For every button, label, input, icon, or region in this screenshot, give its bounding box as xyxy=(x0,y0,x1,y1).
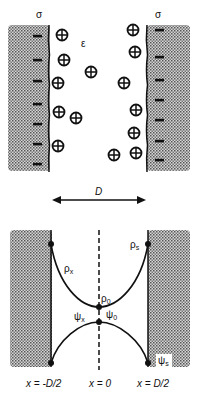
arrowhead-right-icon xyxy=(137,196,146,204)
plus-ion-icon xyxy=(59,55,70,66)
plus-ion-icon xyxy=(109,150,120,161)
psi-s-left-point xyxy=(48,360,54,366)
plus-ion-icon xyxy=(57,30,68,41)
rho-s-left-point xyxy=(48,241,54,247)
minus-charge-icon xyxy=(155,140,164,143)
x-right-label: x = D/2 xyxy=(136,378,169,389)
left-slab xyxy=(10,230,52,367)
rho-s-right-point xyxy=(145,241,151,247)
plus-ion-icon xyxy=(86,67,97,78)
minus-charge-icon xyxy=(33,143,42,146)
minus-charge-icon xyxy=(33,103,42,106)
epsilon-label: ε xyxy=(81,38,86,49)
right-charged-slab xyxy=(147,25,190,171)
plus-ion-icon xyxy=(119,78,130,89)
separation-arrow: D xyxy=(52,186,146,204)
minus-charge-icon xyxy=(33,35,42,38)
plus-ion-icon xyxy=(129,128,140,139)
rho-s-label: ρs xyxy=(130,239,140,251)
plus-ion-icon xyxy=(130,47,141,58)
bottom-panel: ρx ρ0 ρs ψx ψ0 ψs x = -D/2 x = 0 x = D/2 xyxy=(10,230,190,389)
minus-charge-icon xyxy=(33,80,42,83)
minus-charge-icon xyxy=(33,163,42,166)
psi-0-point xyxy=(96,319,102,325)
separation-label: D xyxy=(95,186,102,197)
double-layer-diagram: σ σ ε D ρx ρ0 ρs ψx ψ0 ψs xyxy=(0,0,201,397)
plus-ion-icon xyxy=(53,141,64,152)
psi-s-right-point xyxy=(145,360,151,366)
minus-charge-icon xyxy=(33,59,42,62)
x-left-label: x = -D/2 xyxy=(25,378,62,389)
left-charged-slab xyxy=(8,25,50,171)
top-panel: σ σ ε xyxy=(8,9,190,172)
arrowhead-left-icon xyxy=(52,196,61,204)
minus-charge-icon xyxy=(155,159,164,162)
plus-ion-icon xyxy=(53,78,64,89)
minus-charge-icon xyxy=(155,99,164,102)
sigma-label-left: σ xyxy=(36,9,43,20)
minus-charge-icon xyxy=(155,29,164,32)
plus-ion-icon xyxy=(131,105,142,116)
psi-x-label: ψx xyxy=(74,311,85,323)
plus-ion-icon xyxy=(128,25,139,36)
counterions xyxy=(53,25,142,161)
minus-charge-icon xyxy=(155,56,164,59)
plus-ion-icon xyxy=(54,107,65,118)
sigma-label-right: σ xyxy=(155,9,162,20)
right-slab xyxy=(148,230,190,367)
plus-ion-icon xyxy=(71,113,82,124)
minus-charge-icon xyxy=(155,79,164,82)
plus-ion-icon xyxy=(131,148,142,159)
x-center-label: x = 0 xyxy=(88,378,111,389)
psi-0-label: ψ0 xyxy=(106,309,117,321)
minus-charge-icon xyxy=(155,119,164,122)
minus-charge-icon xyxy=(33,123,42,126)
rho-0-point xyxy=(96,304,102,310)
rho-x-label: ρx xyxy=(64,263,74,275)
rho-0-label: ρ0 xyxy=(101,293,111,305)
